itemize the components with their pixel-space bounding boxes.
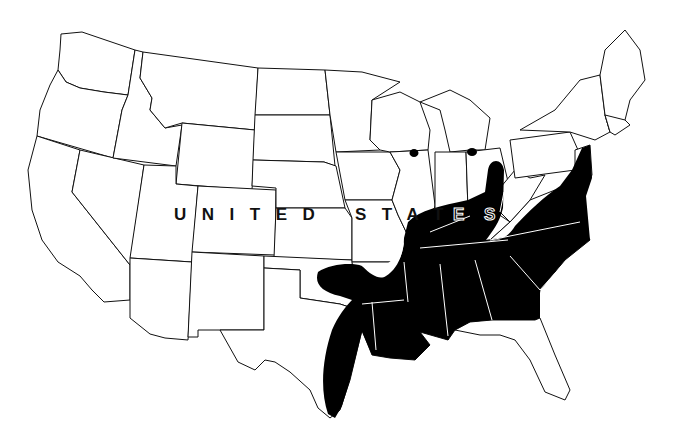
isolated-population-wisconsin	[410, 149, 419, 157]
country-label-part2: STAT	[355, 205, 459, 225]
country-label-part1: UNITED	[174, 205, 330, 225]
country-label-part4: S	[484, 205, 495, 225]
country-label-part3: E	[453, 205, 464, 225]
us-map-svg	[0, 0, 673, 445]
isolated-population-michigan	[467, 148, 477, 156]
range-map: UNITED STAT E S	[0, 0, 673, 445]
